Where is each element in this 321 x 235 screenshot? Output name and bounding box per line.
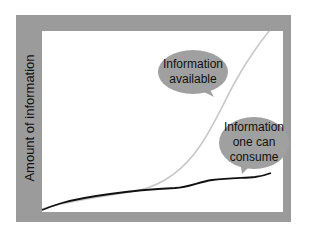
bubble-consume-line-2: one can bbox=[219, 135, 289, 150]
chart-lines bbox=[0, 0, 321, 235]
bubble-text-available: Information available bbox=[158, 57, 228, 87]
bubble-consume-line-1: Information bbox=[219, 120, 289, 135]
line-information-available bbox=[42, 22, 276, 209]
bubble-available-line-1: Information bbox=[158, 57, 228, 72]
bubble-available-line-2: available bbox=[158, 72, 228, 87]
chart: Amount of information Information availa… bbox=[0, 0, 321, 235]
line-information-consume bbox=[42, 173, 271, 210]
bubble-consume-line-3: consume bbox=[219, 150, 289, 165]
bubble-text-consume: Information one can consume bbox=[219, 120, 289, 165]
